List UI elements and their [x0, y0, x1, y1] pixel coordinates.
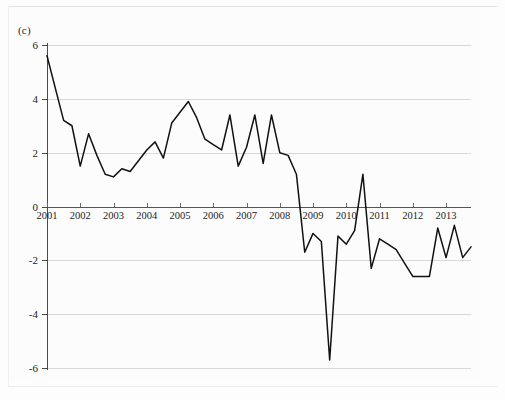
y-axis-label--2: -2	[29, 254, 38, 266]
y-tick--6	[42, 368, 47, 369]
scan-edge-left	[8, 6, 9, 386]
gridline--6	[47, 368, 471, 369]
scan-edge-bottom	[8, 386, 497, 387]
y-axis-label-2: 2	[33, 147, 39, 159]
scan-edge-top	[8, 6, 497, 7]
chart-plot-area: 6420-2-4-6 20012002200320042005200620072…	[47, 45, 471, 368]
y-axis-label--4: -4	[29, 308, 38, 320]
y-axis-label-4: 4	[33, 93, 39, 105]
figure-page: (c) 6420-2-4-6 2001200220032004200520062…	[0, 0, 505, 400]
panel-label: (c)	[18, 24, 31, 36]
y-axis-label-6: 6	[33, 39, 39, 51]
y-axis-label--6: -6	[29, 362, 38, 374]
line-series	[47, 45, 471, 368]
data-line	[47, 56, 471, 360]
